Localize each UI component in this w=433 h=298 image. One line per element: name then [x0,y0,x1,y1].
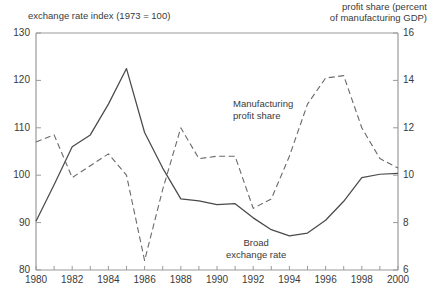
right-tick-8: 8 [403,217,429,228]
left-tick-90: 90 [0,217,30,228]
x-tick-1998: 1998 [342,274,382,285]
right-tick-14: 14 [403,74,429,85]
x-tick-1980: 1980 [16,274,56,285]
x-axis-ticks [36,266,398,270]
axis-frame [36,33,398,270]
x-tick-1984: 1984 [88,274,128,285]
x-tick-1982: 1982 [52,274,92,285]
right-tick-16: 16 [403,27,429,38]
x-tick-1992: 1992 [233,274,273,285]
x-tick-1994: 1994 [269,274,309,285]
right-tick-12: 12 [403,122,429,133]
x-tick-1990: 1990 [197,274,237,285]
chart-container: exchange rate index (1973 = 100) profit … [0,0,433,298]
x-tick-2000: 2000 [378,274,418,285]
left-tick-120: 120 [0,74,30,85]
left-tick-130: 130 [0,27,30,38]
right-axis-ticks [393,33,398,270]
x-tick-1996: 1996 [306,274,346,285]
annotation-manufacturing-profit-share: Manufacturing profit share [233,98,293,121]
right-tick-10: 10 [403,169,429,180]
left-tick-110: 110 [0,122,30,133]
left-tick-100: 100 [0,169,30,180]
annotation-broad-exchange-rate: Broad exchange rate [226,237,286,260]
x-tick-1986: 1986 [125,274,165,285]
series-manufacturing-profit-share [36,76,398,261]
x-tick-1988: 1988 [161,274,201,285]
plot-area [0,0,433,298]
left-axis-ticks [36,33,41,270]
series-broad-exchange-rate [36,69,398,236]
